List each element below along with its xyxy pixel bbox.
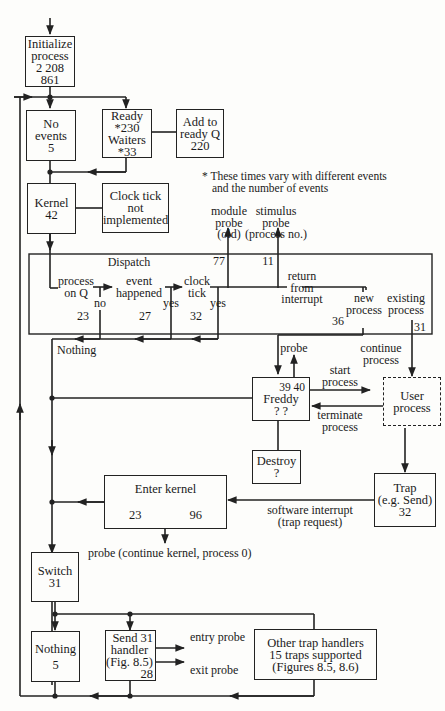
box-line: Other trap handlers bbox=[267, 637, 364, 649]
destroy-box: Destroy ? bbox=[252, 450, 301, 484]
label-line: interrupt bbox=[280, 294, 324, 306]
enter-kernel-box: Enter kernel 2396 bbox=[104, 475, 227, 529]
box-line: *230 bbox=[115, 122, 140, 134]
freddy-unknowns: ? ? bbox=[274, 405, 288, 417]
existing-process-label: existing process bbox=[384, 293, 428, 316]
box-line: 220 bbox=[191, 140, 210, 152]
value-11: 11 bbox=[261, 256, 275, 268]
kernel-box: Kernel 42 bbox=[27, 183, 76, 234]
label-line: (process no.) bbox=[245, 229, 307, 241]
box-line: 5 bbox=[48, 142, 54, 154]
process-on-q-label: process on Q bbox=[58, 276, 94, 299]
footnote: * These times vary with different events… bbox=[202, 171, 387, 194]
nothing-label: Nothing bbox=[57, 345, 96, 357]
label-line: on Q bbox=[58, 288, 94, 300]
add-to-ready-q-box: Add to ready Q 220 bbox=[176, 109, 224, 158]
box-line: (Figures 8.5, 8.6) bbox=[272, 661, 358, 673]
value-27: 27 bbox=[138, 311, 152, 323]
box-line: Waiters bbox=[108, 134, 146, 146]
value-31: 31 bbox=[413, 322, 427, 334]
box-line: ready Q bbox=[180, 128, 220, 140]
entry-probe-label: entry probe bbox=[190, 632, 245, 644]
box-line: 28 bbox=[141, 668, 154, 680]
label-line: process bbox=[384, 305, 428, 317]
value-23: 23 bbox=[76, 311, 90, 323]
box-line: 2 208 861 bbox=[26, 62, 74, 86]
yes-label-1: yes bbox=[162, 298, 180, 310]
value-32: 32 bbox=[189, 311, 203, 323]
enter-kernel-value-23: 23 bbox=[129, 509, 142, 521]
label-line: process bbox=[312, 422, 368, 434]
new-process-label: new process bbox=[346, 293, 382, 316]
no-events-box: No events 5 bbox=[26, 110, 76, 161]
event-happened-label: event happened bbox=[114, 276, 164, 299]
start-process-label: start process bbox=[315, 365, 365, 388]
box-line: Initialize bbox=[28, 38, 72, 50]
box-line: No bbox=[43, 118, 58, 130]
return-from-interrupt-label: return from interrupt bbox=[280, 271, 324, 306]
box-line: handler bbox=[111, 644, 148, 656]
software-interrupt-label: software interrupt (trap request) bbox=[255, 505, 365, 528]
box-line: implemented bbox=[103, 214, 168, 226]
footnote-line: * These times vary with different events bbox=[202, 171, 387, 183]
exit-probe-label: exit probe bbox=[190, 665, 238, 677]
nothing-box: Nothing 5 bbox=[31, 631, 80, 682]
box-line: 31 bbox=[49, 577, 62, 589]
send-handler-box: Send 31 handler (Fig. 8.5) 28 bbox=[105, 630, 156, 681]
box-line: *33 bbox=[118, 146, 137, 158]
enter-kernel-value-96: 96 bbox=[190, 509, 203, 521]
box-line: 5 bbox=[52, 659, 58, 671]
box-line: Send 31 bbox=[112, 632, 153, 644]
box-line: Kernel bbox=[34, 197, 68, 209]
enter-kernel-title: Enter kernel bbox=[135, 483, 196, 495]
ready-waiters-box: Ready *230 Waiters *33 bbox=[102, 109, 152, 158]
dispatch-title: Dispatch bbox=[104, 257, 154, 269]
switch-box: Switch 31 bbox=[31, 552, 79, 602]
freddy-box: 39 40 Freddy ? ? bbox=[252, 377, 310, 421]
yes-label-2: yes bbox=[209, 298, 227, 310]
box-line: ? bbox=[274, 467, 280, 479]
enter-kernel-values: 2396 bbox=[105, 509, 226, 521]
box-line: events bbox=[35, 130, 67, 142]
terminate-process-label: terminate process bbox=[312, 410, 368, 433]
value-36: 36 bbox=[331, 316, 345, 328]
box-line: User bbox=[400, 390, 424, 402]
continue-process-label: continue process bbox=[357, 343, 405, 366]
user-process-box: User process bbox=[383, 377, 441, 426]
box-line: 15 traps supported bbox=[269, 649, 361, 661]
clock-tick-label: clock tick bbox=[184, 276, 210, 299]
box-line: Add to bbox=[183, 116, 217, 128]
no-label: no bbox=[92, 298, 108, 310]
box-line: 32 bbox=[399, 506, 412, 518]
label-line: tick bbox=[184, 288, 210, 300]
clock-tick-not-implemented-box: Clock tick not implemented bbox=[102, 183, 169, 233]
probe-continue-kernel-label: probe (continue kernel, process 0) bbox=[88, 548, 252, 560]
box-line: (Fig. 8.5) bbox=[106, 656, 153, 668]
label-line: (trap request) bbox=[255, 517, 365, 529]
label-line: happened bbox=[114, 288, 164, 300]
initialize-process-box: Initialize process 2 208 861 bbox=[25, 36, 75, 87]
probe-label: probe bbox=[272, 343, 316, 355]
label-line: process bbox=[346, 305, 382, 317]
box-line: Nothing bbox=[35, 643, 76, 655]
kernel-flow-diagram: Initialize process 2 208 861 No events 5… bbox=[0, 0, 445, 711]
stimulus-probe-label: stimulus probe (process no.) bbox=[245, 206, 307, 241]
box-line: process bbox=[393, 402, 431, 414]
label-line: process bbox=[315, 377, 365, 389]
footnote-line: and the number of events bbox=[202, 183, 387, 195]
box-line: 42 bbox=[45, 209, 58, 221]
box-line: process bbox=[31, 50, 69, 62]
other-trap-handlers-box: Other trap handlers 15 traps supported (… bbox=[254, 629, 377, 680]
trap-box: Trap (e.g. Send) 32 bbox=[374, 473, 436, 527]
value-77: 77 bbox=[212, 256, 226, 268]
box-line: Ready bbox=[111, 110, 143, 122]
